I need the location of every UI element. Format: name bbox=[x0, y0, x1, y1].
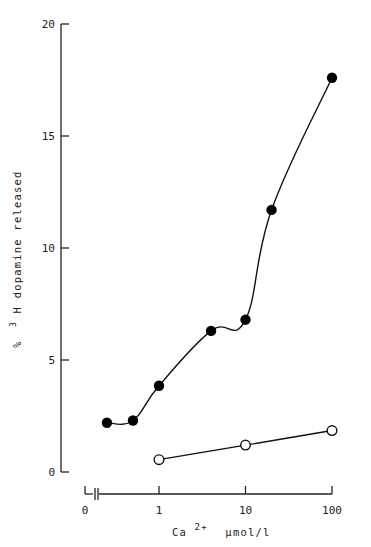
y-tick-label: 20 bbox=[42, 18, 55, 31]
x-tick-label: 10 bbox=[239, 504, 252, 517]
filled-circle-marker bbox=[266, 205, 276, 215]
x-tick-label: 0 bbox=[82, 504, 89, 517]
y-tick-label: 15 bbox=[42, 130, 55, 143]
filled-circle-marker bbox=[327, 73, 337, 83]
filled-circle-marker bbox=[102, 418, 112, 428]
y-axis: 05101520 bbox=[42, 18, 69, 479]
filled-circle-marker bbox=[240, 314, 250, 324]
filled-circle-marker bbox=[128, 415, 138, 425]
y-tick-label: 5 bbox=[48, 354, 55, 367]
y-tick-label: 10 bbox=[42, 242, 55, 255]
x-axis-label: Ca 2+ µmol/l bbox=[172, 520, 271, 538]
x-tick-label: 100 bbox=[322, 504, 342, 517]
x-ticks: 0110100 bbox=[82, 486, 342, 517]
series-filled bbox=[102, 73, 337, 428]
chart: 05101520 0110100 % 3 H dopamine released… bbox=[0, 0, 371, 547]
open-circle-marker bbox=[154, 455, 164, 465]
open-circle-marker bbox=[327, 426, 337, 436]
x-tick-label: 1 bbox=[156, 504, 163, 517]
filled-circle-marker bbox=[206, 326, 216, 336]
y-axis-label: % 3 H dopamine released bbox=[6, 170, 23, 348]
series-open bbox=[154, 426, 337, 465]
filled-circle-marker bbox=[154, 381, 164, 391]
series-line bbox=[107, 78, 332, 425]
axis-break-icon bbox=[95, 488, 98, 500]
x-axis: 0110100 bbox=[82, 486, 342, 517]
open-circle-marker bbox=[241, 440, 251, 450]
y-ticks: 05101520 bbox=[42, 18, 69, 479]
y-tick-label: 0 bbox=[48, 466, 55, 479]
series-layer bbox=[102, 73, 337, 465]
